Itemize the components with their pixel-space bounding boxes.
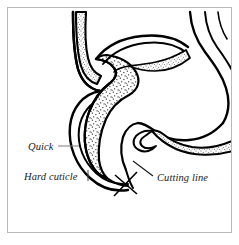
claw-diagram-canvas: Quick Hard cuticle Cutting line <box>0 0 239 245</box>
label-hard-cuticle: Hard cuticle <box>23 171 78 182</box>
claw-diagram-figure: Quick Hard cuticle Cutting line <box>0 0 239 245</box>
label-quick: Quick <box>28 141 54 152</box>
label-cutting-line: Cutting line <box>157 172 208 183</box>
